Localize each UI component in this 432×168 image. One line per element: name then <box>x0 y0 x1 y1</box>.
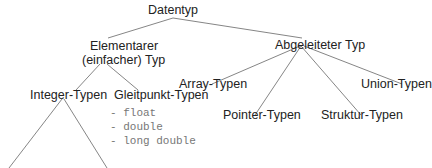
node-array: Array-Typen <box>179 77 247 92</box>
node-union: Union-Typen <box>361 77 432 92</box>
edge-root-elementary <box>108 18 173 38</box>
edge-integer-right <box>64 99 107 168</box>
node-root: Datentyp <box>148 3 198 18</box>
float-type-long-double: - long double <box>110 134 196 148</box>
edge-integer-left <box>9 99 62 168</box>
node-elementary-line2: (einfacher) Typ <box>82 53 165 68</box>
node-integer: Integer-Typen <box>30 88 107 103</box>
float-type-float: - float <box>110 106 156 120</box>
edge-derived-pointer <box>255 46 301 115</box>
node-elementary-line1: Elementarer <box>90 39 158 54</box>
node-pointer: Pointer-Typen <box>223 108 301 123</box>
node-struct: Struktur-Typen <box>321 108 403 123</box>
node-derived: Abgeleiteter Typ <box>275 38 365 53</box>
float-type-double: - double <box>110 120 163 134</box>
edge-root-derived <box>173 18 302 38</box>
